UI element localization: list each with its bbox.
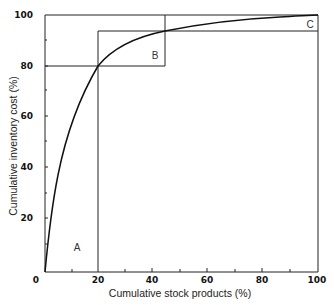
- y-tick-80: 80: [20, 61, 33, 71]
- region-b-label: B: [152, 50, 159, 61]
- region-c-label: C: [306, 19, 313, 30]
- abc-chart: 100 80 60 40 20 0 20 40 60 80 100 Cumula…: [0, 0, 334, 305]
- origin-label: 0: [33, 275, 39, 285]
- region-a-label: A: [74, 242, 81, 253]
- y-axis-label: Cumulative inventory cost (%): [7, 76, 19, 215]
- x-tick-100: 100: [308, 275, 327, 285]
- x-tick-40: 40: [146, 275, 159, 285]
- y-tick-60: 60: [20, 111, 33, 121]
- x-axis-label: Cumulative stock products (%): [109, 287, 251, 299]
- x-tick-60: 60: [201, 275, 214, 285]
- abc-curve: [45, 15, 318, 272]
- y-tick-100: 100: [14, 10, 33, 20]
- x-tick-20: 20: [92, 275, 105, 285]
- ticks: [45, 40, 290, 272]
- axes: [45, 15, 318, 272]
- y-tick-20: 20: [20, 213, 33, 223]
- x-tick-80: 80: [256, 275, 269, 285]
- y-tick-40: 40: [20, 162, 33, 172]
